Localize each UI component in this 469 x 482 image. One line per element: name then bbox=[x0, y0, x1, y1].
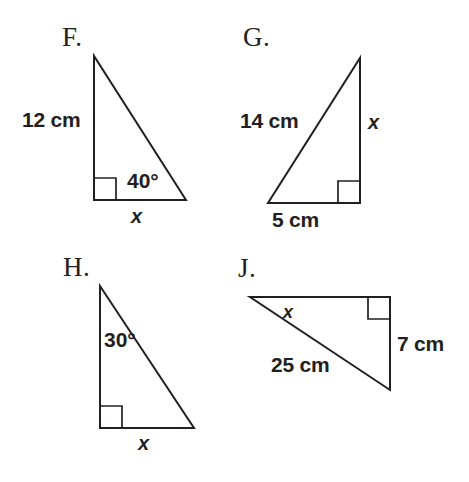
problem-letter-f: F. bbox=[62, 24, 83, 51]
label-base-x: x bbox=[131, 206, 142, 226]
label-leg-x: x bbox=[368, 112, 379, 132]
label-angle-40deg: 40° bbox=[127, 170, 159, 191]
label-angle-30deg: 30° bbox=[104, 329, 136, 350]
problem-j: J. x 7 cm 25 cm bbox=[235, 241, 469, 482]
label-hypotenuse-25cm: 25 cm bbox=[271, 354, 330, 375]
problem-letter-j: J. bbox=[238, 255, 256, 282]
right-angle-marker-icon bbox=[338, 181, 360, 203]
label-hypotenuse-14cm: 14 cm bbox=[240, 110, 299, 131]
label-leg-12cm: 12 cm bbox=[22, 109, 81, 130]
triangle-j-outline bbox=[250, 297, 390, 390]
problem-f: F. 12 cm 40° x bbox=[0, 0, 235, 241]
problem-g: G. 14 cm x 5 cm bbox=[235, 0, 469, 241]
label-leg-7cm: 7 cm bbox=[397, 333, 444, 354]
problem-letter-g: G. bbox=[243, 24, 270, 51]
label-angle-x: x bbox=[283, 303, 293, 321]
right-angle-marker-icon bbox=[100, 406, 122, 428]
right-angle-marker-icon bbox=[94, 178, 116, 200]
right-angle-marker-icon bbox=[368, 297, 390, 319]
worksheet-page: F. 12 cm 40° x G. 14 cm x 5 cm H. 30° x bbox=[0, 0, 469, 482]
triangle-h-drawing bbox=[0, 241, 235, 482]
label-base-5cm: 5 cm bbox=[272, 209, 319, 230]
problem-letter-h: H. bbox=[63, 254, 90, 281]
label-base-x: x bbox=[138, 433, 149, 453]
problem-h: H. 30° x bbox=[0, 241, 235, 482]
